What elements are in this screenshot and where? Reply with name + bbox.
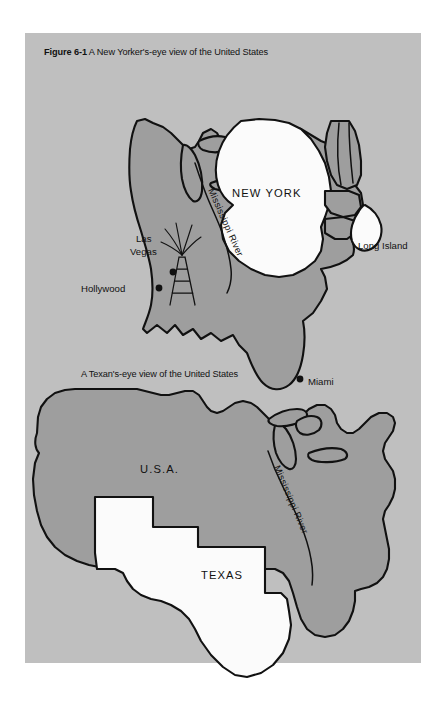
map-texan-view: U.S.A. TEXAS Mississippi River	[25, 33, 421, 663]
lake-erie-carve-map2	[308, 448, 347, 462]
lake-huron-carve-map2	[296, 416, 321, 434]
label-texas: TEXAS	[201, 569, 243, 581]
label-usa: U.S.A.	[140, 463, 179, 475]
figure-panel: Figure 6-1 A New Yorker's-eye view of th…	[25, 33, 421, 663]
